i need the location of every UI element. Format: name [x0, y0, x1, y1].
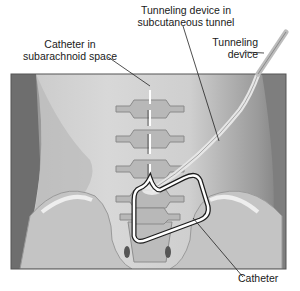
illustration-frame: [11, 74, 286, 269]
label-tunneling-subcutaneous: Tunneling device in subcutaneous tunnel: [106, 4, 266, 28]
label-catheter-subarachnoid: Catheter in subarachnoid space: [10, 38, 130, 62]
label-line: device: [208, 48, 258, 60]
label-line: subcutaneous tunnel: [106, 16, 266, 28]
label-line: Catheter in: [10, 38, 130, 50]
label-line: subarachnoid space: [10, 50, 130, 62]
label-tunneling-device: Tunneling device: [208, 36, 258, 60]
label-line: Tunneling: [208, 36, 258, 48]
label-line: Tunneling device in: [106, 4, 266, 16]
label-catheter: Catheter: [238, 272, 278, 284]
